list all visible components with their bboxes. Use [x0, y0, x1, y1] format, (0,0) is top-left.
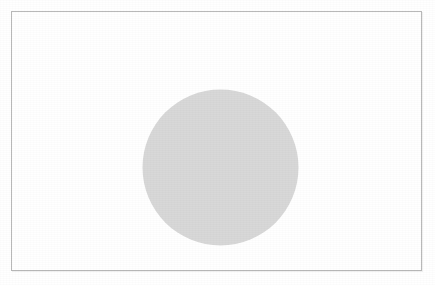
pie-chart[interactable] [12, 12, 423, 272]
pie-chart-svg [12, 12, 423, 272]
pie-shadow [143, 90, 299, 246]
chart-frame [11, 11, 422, 271]
